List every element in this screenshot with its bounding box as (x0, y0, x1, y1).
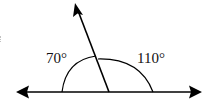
ray-arrowhead-icon (73, 3, 83, 17)
left-angle-label: 70° (46, 50, 67, 66)
left-angle-arc (62, 56, 96, 92)
right-angle-label: 110° (137, 50, 165, 66)
angle-diagram: 70° 110° (0, 0, 209, 110)
ray-line (79, 12, 110, 92)
